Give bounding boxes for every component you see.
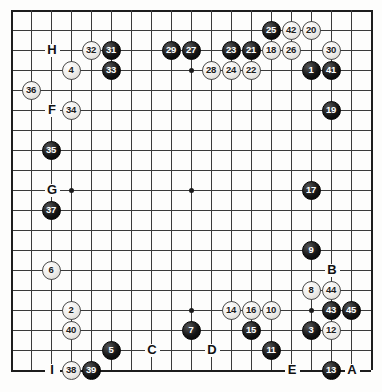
stone-white-30: 30 xyxy=(322,41,341,60)
stone-black-33: 33 xyxy=(102,61,121,80)
stone-black-39: 39 xyxy=(82,361,101,380)
board-marker-a: A xyxy=(345,364,360,377)
stone-white-42: 42 xyxy=(282,21,301,40)
board-marker-f: F xyxy=(45,104,60,117)
stone-black-37: 37 xyxy=(42,201,61,220)
stone-black-21: 21 xyxy=(242,41,261,60)
board-marker-e: E xyxy=(285,364,300,377)
board-marker-c: C xyxy=(145,344,160,357)
stone-white-40: 40 xyxy=(62,321,81,340)
stone-white-36: 36 xyxy=(22,81,41,100)
stone-black-17: 17 xyxy=(302,181,321,200)
stone-white-22: 22 xyxy=(242,61,261,80)
stone-black-41: 41 xyxy=(322,61,341,80)
stone-black-29: 29 xyxy=(162,41,181,60)
stone-white-38: 38 xyxy=(62,361,81,380)
stone-black-9: 9 xyxy=(302,241,321,260)
board-marker-d: D xyxy=(205,344,220,357)
board-marker-i: I xyxy=(45,364,60,377)
stone-white-16: 16 xyxy=(242,301,261,320)
board-marker-g: G xyxy=(45,184,60,197)
stone-black-35: 35 xyxy=(42,141,61,160)
stone-black-45: 45 xyxy=(342,301,361,320)
stone-black-3: 3 xyxy=(302,321,321,340)
star-point xyxy=(309,308,314,313)
stone-white-4: 4 xyxy=(62,61,81,80)
board-marker-h: H xyxy=(45,44,60,57)
grid-line-vertical xyxy=(371,10,373,370)
board-marker-b: B xyxy=(325,264,340,277)
stone-white-20: 20 xyxy=(302,21,321,40)
stone-white-44: 44 xyxy=(322,281,341,300)
stone-black-1: 1 xyxy=(302,61,321,80)
stone-white-12: 12 xyxy=(322,321,341,340)
stone-black-43: 43 xyxy=(322,301,341,320)
star-point xyxy=(189,188,194,193)
stone-black-27: 27 xyxy=(182,41,201,60)
stone-black-13: 13 xyxy=(322,361,341,380)
stone-white-10: 10 xyxy=(262,301,281,320)
stone-white-8: 8 xyxy=(302,281,321,300)
stone-white-32: 32 xyxy=(82,41,101,60)
grid-line-vertical xyxy=(131,10,132,370)
star-point xyxy=(69,188,74,193)
stone-white-2: 2 xyxy=(62,301,81,320)
go-board: HFGBCDEAI2542203231292723211826304332824… xyxy=(0,0,382,392)
stone-white-28: 28 xyxy=(202,61,221,80)
star-point xyxy=(189,68,194,73)
stone-black-5: 5 xyxy=(102,341,121,360)
stone-black-7: 7 xyxy=(182,321,201,340)
grid-line-vertical xyxy=(151,10,152,370)
stone-white-34: 34 xyxy=(62,101,81,120)
grid-line-vertical xyxy=(31,10,32,370)
grid-line-vertical xyxy=(11,10,13,370)
stone-white-14: 14 xyxy=(222,301,241,320)
stone-black-23: 23 xyxy=(222,41,241,60)
stone-black-15: 15 xyxy=(242,321,261,340)
stone-white-6: 6 xyxy=(42,261,61,280)
stone-white-26: 26 xyxy=(282,41,301,60)
stone-black-19: 19 xyxy=(322,101,341,120)
stone-black-11: 11 xyxy=(262,341,281,360)
grid-line-vertical xyxy=(91,10,92,370)
stone-black-31: 31 xyxy=(102,41,121,60)
stone-black-25: 25 xyxy=(262,21,281,40)
stone-white-18: 18 xyxy=(262,41,281,60)
star-point xyxy=(189,308,194,313)
grid-line-vertical xyxy=(171,10,172,370)
stone-white-24: 24 xyxy=(222,61,241,80)
grid-line-vertical xyxy=(291,10,292,370)
